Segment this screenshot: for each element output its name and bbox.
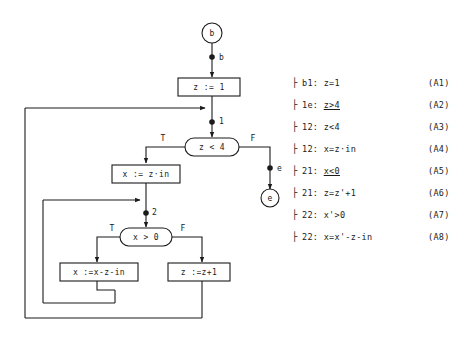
cut-point-label-2: 2 xyxy=(152,208,157,217)
process-node-p3-label: x :=x-z-in xyxy=(73,268,125,277)
cut-point-label-b: b xyxy=(219,53,224,62)
assertion-formula: x=z·in xyxy=(324,144,357,154)
assertion-text: 21: x<0 xyxy=(302,166,428,176)
assertion-path: b1: xyxy=(302,78,318,88)
cut-point-label-e: e xyxy=(277,164,282,173)
assertion-path: 22: xyxy=(302,210,318,220)
assertion-row: ├ 22: x=x'-z-in (A8) xyxy=(292,232,462,254)
assertion-text: b1: z=1 xyxy=(302,78,428,88)
end-node-label: e xyxy=(267,194,272,203)
cut-point-dot-e xyxy=(267,165,273,171)
assertion-formula: z>4 xyxy=(324,100,340,110)
assertion-path: 12: xyxy=(302,122,318,132)
assertion-bullet-icon: ├ xyxy=(292,211,302,220)
flowchart-text-labels: b e z := 1 x := z·in x :=x-z-in z :=z+1 … xyxy=(73,29,273,277)
assertion-text: 12: x=z·in xyxy=(302,144,428,154)
assertion-path: 22: xyxy=(302,232,318,242)
assertion-text: 12: z<4 xyxy=(302,122,428,132)
assertion-tag: (A2) xyxy=(428,100,462,110)
assertion-formula: x'>0 xyxy=(324,210,346,220)
process-node-p4-label: z :=z+1 xyxy=(181,268,218,277)
cut-point-dot-b xyxy=(209,54,215,60)
assertion-path: 21: xyxy=(302,166,318,176)
assertion-path: 21: xyxy=(302,188,318,198)
assertion-bullet-icon: ├ xyxy=(292,101,302,110)
assertion-bullet-icon: ├ xyxy=(292,79,302,88)
edge-label-d1-true: T xyxy=(160,134,165,143)
edge-d1-false xyxy=(239,147,270,189)
edge-d2-true xyxy=(97,237,120,262)
assertion-tag: (A3) xyxy=(428,122,462,132)
decision-node-d1-label: z < 4 xyxy=(199,143,225,152)
assertion-bullet-icon: ├ xyxy=(292,145,302,154)
screenshot-root: b e z := 1 x := z·in x :=x-z-in z :=z+1 … xyxy=(0,0,466,341)
assertion-tag: (A4) xyxy=(428,144,462,154)
assertion-formula: x<0 xyxy=(324,166,340,176)
edge-label-d2-false: F xyxy=(180,224,185,233)
assertion-bullet-icon: ├ xyxy=(292,123,302,132)
assertion-text: 22: x=x'-z-in xyxy=(302,232,428,242)
start-node-label: b xyxy=(209,29,214,38)
assertion-row: ├ 22: x'>0 (A7) xyxy=(292,210,462,232)
cut-point-label-1: 1 xyxy=(219,117,224,126)
assertion-row: ├ b1: z=1 (A1) xyxy=(292,78,462,100)
assertion-row: ├ 21: z=z'+1 (A6) xyxy=(292,188,462,210)
assertion-path: 1e: xyxy=(302,100,318,110)
edge-label-d1-false: F xyxy=(250,134,255,143)
assertion-text: 22: x'>0 xyxy=(302,210,428,220)
process-node-p2-label: x := z·in xyxy=(123,170,170,179)
assertion-text: 1e: z>4 xyxy=(302,100,428,110)
process-node-p1-label: z := 1 xyxy=(193,83,224,92)
edge-d2-false xyxy=(172,237,202,262)
assertion-formula: z=z'+1 xyxy=(324,188,357,198)
cut-point-dot-2 xyxy=(143,210,149,216)
assertion-formula: z=1 xyxy=(324,78,340,88)
edge-label-d2-true: T xyxy=(109,224,114,233)
assertion-formula: x=x'-z-in xyxy=(324,232,373,242)
decision-node-d2-label: x > 0 xyxy=(133,233,159,242)
assertion-tag: (A6) xyxy=(428,188,462,198)
assertion-row: ├ 12: x=z·in (A4) xyxy=(292,144,462,166)
assertion-list: ├ b1: z=1 (A1) ├ 1e: z>4 (A2) ├ 12: z<4 … xyxy=(292,78,462,254)
assertion-bullet-icon: ├ xyxy=(292,189,302,198)
assertion-row: ├ 1e: z>4 (A2) xyxy=(292,100,462,122)
assertion-tag: (A5) xyxy=(428,166,462,176)
cut-point-dot-1 xyxy=(209,119,215,125)
assertion-path: 12: xyxy=(302,144,318,154)
assertion-bullet-icon: ├ xyxy=(292,167,302,176)
assertion-row: ├ 21: x<0 (A5) xyxy=(292,166,462,188)
assertion-bullet-icon: ├ xyxy=(292,233,302,242)
assertion-tag: (A7) xyxy=(428,210,462,220)
assertion-row: ├ 12: z<4 (A3) xyxy=(292,122,462,144)
assertion-formula: z<4 xyxy=(324,122,340,132)
assertion-tag: (A8) xyxy=(428,232,462,242)
edge-d1-true xyxy=(146,147,185,163)
assertion-tag: (A1) xyxy=(428,78,462,88)
edge-p3-to-inner-loop xyxy=(97,281,115,290)
assertion-text: 21: z=z'+1 xyxy=(302,188,428,198)
